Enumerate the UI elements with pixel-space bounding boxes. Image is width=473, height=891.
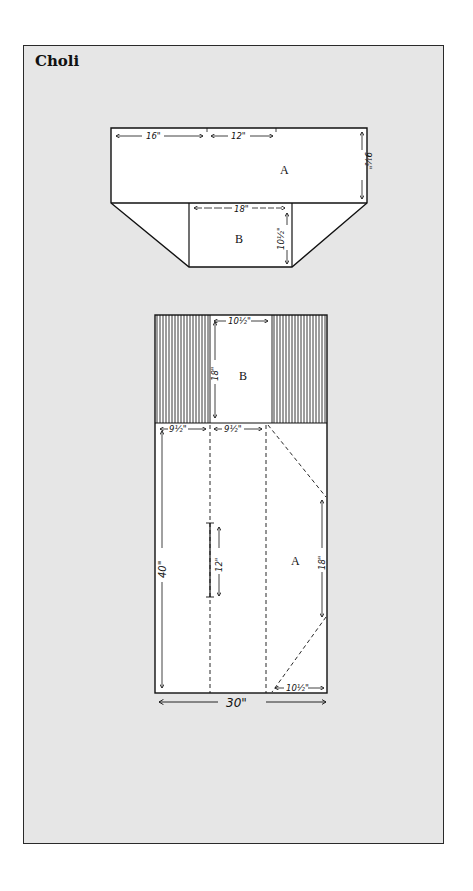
dim-b-width: 10½": [228, 316, 251, 326]
piece-b-label: B: [235, 232, 243, 246]
dim-fold-1: 9½": [169, 424, 187, 434]
dim-bottom-offset: 10½": [286, 683, 309, 693]
dim-slit: 12": [214, 557, 224, 572]
cutting-layout: 10½" 18" B 9½" 9½" 40" 12" 18" A: [155, 315, 327, 710]
dim-fold-2: 9½": [224, 424, 242, 434]
pattern-diagram: 16" 12" 9½" A 18" 10½" B 10½": [0, 0, 473, 891]
dim-40: 40": [157, 561, 168, 578]
cut-piece-b-label: B: [239, 369, 247, 383]
dim-taper: 18": [317, 555, 327, 570]
cut-piece-a-label: A: [291, 554, 300, 568]
assembled-view: 16" 12" 9½" A 18" 10½" B: [111, 128, 373, 267]
dim-18: 18": [234, 204, 249, 214]
piece-a-shape: [111, 128, 367, 267]
dim-12: 12": [231, 131, 246, 141]
dim-16: 16": [146, 131, 161, 141]
dim-9-half: 9½": [363, 152, 373, 170]
waste-left: [155, 315, 210, 423]
dim-10-half: 10½": [276, 227, 286, 250]
dim-b-height: 18": [210, 366, 220, 381]
dim-30: 30": [226, 696, 247, 710]
waste-right: [272, 315, 327, 423]
piece-a-label: A: [280, 163, 289, 177]
piece-a-area: [155, 423, 327, 693]
